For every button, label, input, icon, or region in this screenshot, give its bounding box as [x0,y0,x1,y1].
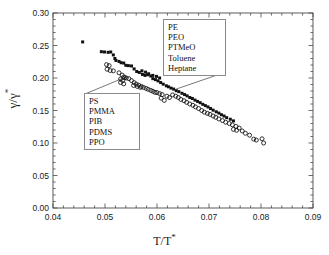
data-point-filled [133,67,136,70]
annotation-item: PMMA [89,106,135,116]
annotation-item: PS [89,96,135,106]
data-point-filled [225,116,228,119]
data-point-filled [154,78,157,81]
data-point-filled [206,105,209,108]
annotation-item: PE [168,22,221,32]
y-tick-label: 0.30 [18,8,49,18]
y-axis-label-superscript: * [3,89,13,94]
data-point-filled [114,59,117,62]
x-tick-label: 0.05 [94,212,116,222]
annotation-box-polymers: PS PMMA PIB PDMS PPO [84,93,140,150]
y-tick-label: 0.25 [18,41,49,51]
data-point-open [248,133,252,137]
data-point-open [243,131,247,135]
annotation-item: PTMeO [168,42,221,52]
data-point-filled [155,75,158,78]
data-point-filled [220,113,223,116]
y-axis-label-base: γ/γ [5,93,20,108]
data-point-filled [151,77,154,80]
data-point-filled [201,103,204,106]
data-point-filled [177,90,180,93]
data-point-filled [109,51,112,54]
data-point-filled [144,74,147,77]
data-point-open [260,137,264,141]
data-point-filled [191,97,194,100]
data-point-filled [162,83,165,86]
data-point-filled [107,51,110,54]
data-point-filled [138,71,141,74]
data-point-filled [193,99,196,102]
annotation-box-small-molecules: PE PEO PTMeO Toluene Heptane [163,19,226,76]
annotation-item: Heptane [168,63,221,73]
data-point-filled [217,112,220,115]
y-tick-label: 0.15 [18,106,49,116]
data-point-filled [167,85,170,88]
data-point-filled [130,64,133,67]
x-tick-label: 0.09 [302,212,324,222]
annotation-item: PIB [89,116,135,126]
data-point-filled [229,118,232,121]
data-point-filled [183,93,186,96]
data-point-filled [157,79,160,82]
data-point-filled [186,94,189,97]
data-point-filled [196,100,199,103]
data-point-filled [175,89,178,92]
data-point-filled [124,64,127,67]
data-point-filled [209,107,212,110]
data-point-filled [158,77,161,80]
annotation-item: Toluene [168,53,221,63]
data-point-filled [170,87,173,90]
y-tick-label: 0.20 [18,73,49,83]
data-point-filled [188,96,191,99]
data-point-filled [199,101,202,104]
data-point-filled [103,51,106,54]
x-tick-label: 0.06 [146,212,168,222]
x-axis-label-superscript: * [171,232,176,242]
data-point-open [252,137,256,141]
y-tick-label: 0.10 [18,138,49,148]
data-point-open [262,141,266,145]
data-point-filled [135,70,138,73]
y-tick-label: 0.05 [18,171,49,181]
data-point-filled [172,88,175,91]
x-axis-label-base: T/T [153,234,171,248]
y-axis-label: γ/γ* [3,69,20,129]
data-point-filled [215,110,218,113]
data-point-filled [159,81,162,84]
data-point-open [254,138,258,142]
x-tick-label: 0.08 [250,212,272,222]
data-point-filled [223,115,226,118]
data-point-open [162,98,166,102]
annotation-item: PPO [89,137,135,147]
data-point-filled [81,40,84,43]
data-point-filled [180,92,183,95]
annotation-item: PDMS [89,127,135,137]
data-point-filled [100,50,103,53]
data-point-filled [127,64,130,67]
data-point-filled [141,73,144,76]
annotation-item: PEO [168,32,221,42]
data-point-filled [120,61,123,64]
data-point-filled [151,74,154,77]
data-point-filled [144,71,147,74]
data-point-open [105,63,109,67]
data-point-filled [140,69,143,72]
scatter-plot-figure: 0.040.050.060.070.080.09 0.000.050.100.1… [0,0,329,255]
x-tick-label: 0.07 [198,212,220,222]
data-point-filled [204,104,207,107]
data-point-filled [212,109,215,112]
data-point-filled [147,72,150,75]
x-axis-label: T/T* [0,232,329,249]
y-tick-label: 0.00 [18,203,49,213]
data-point-filled [112,53,115,56]
x-tick-label: 0.04 [42,212,64,222]
data-point-filled [232,119,235,122]
data-point-open [158,92,162,96]
